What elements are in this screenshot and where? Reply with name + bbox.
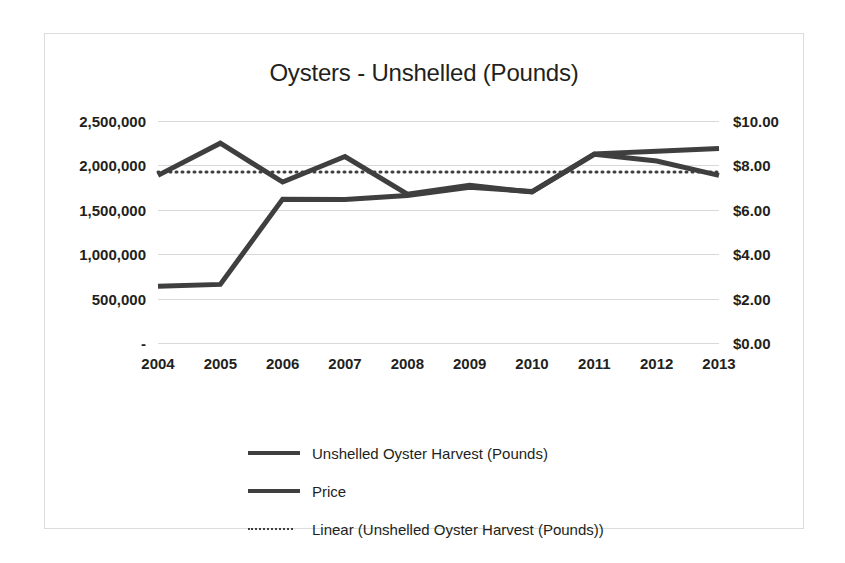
- x-axis-tick-label: 2010: [515, 355, 548, 372]
- y-axis-right-tick-label: $6.00: [733, 201, 771, 218]
- y-axis-left-tick-label: 1,500,000: [79, 201, 146, 218]
- x-axis-tick-label: 2005: [204, 355, 237, 372]
- legend-item-label: Price: [312, 483, 346, 500]
- series-lines: [158, 121, 719, 343]
- plot-area: -500,0001,000,0001,500,0002,000,0002,500…: [158, 121, 719, 343]
- x-axis-tick-label: 2009: [453, 355, 486, 372]
- x-axis-tick-label: 2006: [266, 355, 299, 372]
- chart-frame: Oysters - Unshelled (Pounds) -500,0001,0…: [44, 33, 804, 529]
- y-axis-right-tick-label: $0.00: [733, 335, 771, 352]
- y-axis-left-tick-label: 1,000,000: [79, 246, 146, 263]
- solid-line-icon: [245, 483, 303, 499]
- legend-item[interactable]: Price: [245, 472, 765, 510]
- legend-item-label: Unshelled Oyster Harvest (Pounds): [312, 445, 548, 462]
- x-axis-tick-label: 2004: [141, 355, 174, 372]
- solid-line-icon: [245, 445, 303, 461]
- y-axis-right-tick-label: $2.00: [733, 290, 771, 307]
- y-axis-right-tick-label: $4.00: [733, 246, 771, 263]
- legend-item[interactable]: Linear (Unshelled Oyster Harvest (Pounds…: [245, 510, 765, 548]
- dotted-line-icon: [245, 521, 303, 537]
- x-axis-tick-label: 2007: [328, 355, 361, 372]
- y-axis-right-tick-label: $10.00: [733, 113, 779, 130]
- y-axis-left-tick-label: 500,000: [92, 290, 146, 307]
- y-axis-left-tick-label: 2,500,000: [79, 113, 146, 130]
- x-axis-tick-label: 2013: [702, 355, 735, 372]
- series-line: [158, 149, 719, 287]
- x-axis-tick-label: 2012: [640, 355, 673, 372]
- legend-item-label: Linear (Unshelled Oyster Harvest (Pounds…: [312, 521, 604, 538]
- chart-legend: Unshelled Oyster Harvest (Pounds)PriceLi…: [245, 434, 765, 548]
- x-axis-tick-label: 2008: [391, 355, 424, 372]
- legend-item[interactable]: Unshelled Oyster Harvest (Pounds): [245, 434, 765, 472]
- y-axis-right-tick-label: $8.00: [733, 157, 771, 174]
- x-axis-tick-label: 2011: [578, 355, 611, 372]
- y-axis-left-tick-label: -: [141, 335, 146, 352]
- chart-title: Oysters - Unshelled (Pounds): [45, 59, 803, 87]
- y-axis-left-tick-label: 2,000,000: [79, 157, 146, 174]
- gridline: [158, 343, 719, 344]
